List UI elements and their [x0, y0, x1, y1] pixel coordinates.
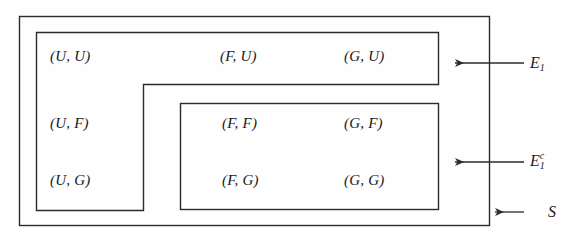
region-label-E1c-base: E	[530, 152, 540, 169]
cell-label-u-u: (U, U)	[50, 48, 90, 65]
region-label-E1-subscript: 1	[540, 62, 545, 73]
cell-label-g-u: (G, U)	[344, 48, 384, 65]
cell-label-u-g: (U, G)	[50, 172, 90, 189]
cell-label-f-g: (F, G)	[222, 172, 259, 189]
cell-label-g-f: (G, F)	[344, 115, 383, 132]
set-diagram-figure: (U, U) (F, U) (G, U) (U, F) (F, F) (G, F…	[0, 0, 572, 240]
complement-region-E1c-outline	[181, 104, 439, 210]
cell-label-f-u: (F, U)	[220, 48, 257, 65]
region-label-S: S	[548, 203, 556, 221]
cell-label-g-g: (G, G)	[344, 172, 384, 189]
cell-label-f-f: (F, F)	[222, 115, 257, 132]
region-label-S-base: S	[548, 203, 556, 220]
cell-label-u-f: (U, F)	[50, 115, 89, 132]
region-label-E1c-subscript: 1	[540, 160, 545, 171]
region-label-E1c: E1c	[530, 152, 549, 170]
region-label-E1-base: E	[530, 54, 540, 71]
region-label-E1c-superscript: c	[540, 150, 544, 161]
region-label-E1: E1	[530, 54, 545, 72]
region-label-E1c-scripts: 1c	[540, 152, 549, 170]
